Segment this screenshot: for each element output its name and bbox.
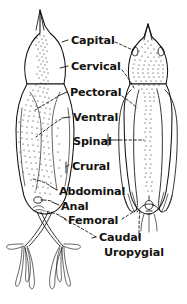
label-crural: Crural [72, 160, 110, 173]
bird-dorsal-view [119, 24, 178, 232]
leader-capital-left [62, 40, 68, 42]
label-ventral: Ventral [73, 111, 118, 124]
ventral-foot-left [50, 244, 81, 289]
leader-capital-right [115, 42, 133, 50]
ventral-foot-right [7, 244, 35, 289]
label-anal: Anal [61, 200, 89, 213]
label-caudal: Caudal [99, 231, 142, 244]
leader-caudal-tick [92, 237, 96, 238]
label-capital: Capital [71, 34, 115, 47]
pterylosis-figure: Capital Cervical Pectoral Ventral Spinal… [0, 0, 187, 304]
leader-femoral-left [60, 216, 66, 219]
ventral-leg-left-b [41, 212, 63, 246]
ventral-leg-right [25, 212, 48, 246]
ventral-leg-left [37, 212, 60, 246]
ventral-leg-right-b [29, 212, 52, 246]
label-spinal: Spinal [73, 135, 112, 148]
bird-ventral-view [7, 10, 81, 289]
label-cervical: Cervical [71, 60, 121, 73]
label-abdominal: Abdominal [59, 185, 125, 198]
figure-canvas: Capital Cervical Pectoral Ventral Spinal… [0, 0, 187, 304]
dorsal-head-outline [129, 24, 168, 84]
dorsal-body-outline [124, 84, 172, 214]
label-femoral: Femoral [68, 214, 118, 227]
leader-femoral-right [122, 210, 136, 219]
dorsal-tail-feathers [141, 214, 157, 232]
label-uropygial: Uropygial [104, 246, 164, 259]
label-pectoral: Pectoral [70, 86, 122, 99]
